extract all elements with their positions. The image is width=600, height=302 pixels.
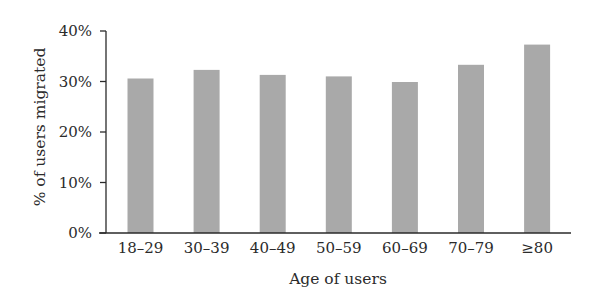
y-tick-label: 40% <box>59 22 92 40</box>
y-axis: 0%10%20%30%40% <box>59 22 106 242</box>
y-tick-label: 30% <box>59 73 92 91</box>
x-tick-label: 18–29 <box>118 239 164 257</box>
y-tick-label: 10% <box>59 174 92 192</box>
x-tick-label: 50–59 <box>316 239 362 257</box>
y-tick-label: 0% <box>68 224 92 242</box>
bar-18-29 <box>128 79 154 234</box>
x-tick-label: 60–69 <box>382 239 428 257</box>
y-tick-label: 20% <box>59 123 92 141</box>
x-tick-label: 40–49 <box>250 239 296 257</box>
x-tick-label: ≥80 <box>521 239 553 257</box>
bar-50-59 <box>326 76 352 233</box>
x-tick-label: 30–39 <box>184 239 230 257</box>
bar-70-79 <box>458 65 484 233</box>
bar-chart: 0%10%20%30%40% 18–2930–3940–4950–5960–69… <box>0 0 600 302</box>
bars-group <box>128 45 551 233</box>
y-axis-title: % of users migrated <box>31 48 49 207</box>
bar-60-69 <box>392 82 418 233</box>
bar-40-49 <box>260 75 286 233</box>
x-axis-title: Age of users <box>288 270 387 288</box>
x-axis: 18–2930–3940–4950–5960–6970–79≥80 <box>99 233 571 257</box>
bar--80 <box>524 45 550 233</box>
x-tick-label: 70–79 <box>448 239 494 257</box>
bar-30-39 <box>194 70 220 233</box>
